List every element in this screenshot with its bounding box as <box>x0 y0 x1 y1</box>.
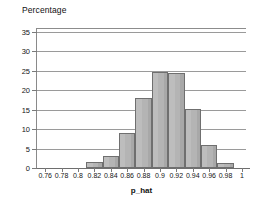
y-axis-tick-label: 0 <box>26 164 30 173</box>
y-axis-tick-label: 25 <box>22 66 30 75</box>
y-axis-tick-label: 5 <box>26 144 30 153</box>
histogram-bar <box>103 156 119 168</box>
y-axis-tick-label: 35 <box>22 27 30 36</box>
x-axis-tick-label: 0.84 <box>104 172 118 179</box>
histogram-bar <box>185 109 201 169</box>
x-axis-tick-label: 0.92 <box>170 172 184 179</box>
x-axis-tick-label: 1 <box>240 172 244 179</box>
x-axis-title: p_hat <box>37 186 246 195</box>
y-axis-tick-label: 20 <box>22 86 30 95</box>
x-axis-tick-label: 0.98 <box>219 172 233 179</box>
y-axis-title: Percentage <box>22 5 66 15</box>
histogram-bar <box>217 163 233 168</box>
histogram-bar <box>135 98 151 168</box>
x-axis-tick-label: 0.88 <box>137 172 151 179</box>
histogram-bar <box>201 145 217 168</box>
bar-series <box>37 28 246 168</box>
histogram-bar <box>86 162 102 168</box>
histogram-bar <box>152 72 168 168</box>
x-axis-tick-label: 0.76 <box>38 172 52 179</box>
x-axis-tick-label: 0.9 <box>155 172 165 179</box>
plot-area: 05101520253035 0.760.780.80.820.840.860.… <box>37 28 246 168</box>
y-axis-tick-label: 30 <box>22 47 30 56</box>
x-axis-tick-label: 0.8 <box>73 172 83 179</box>
x-axis-tick-label: 0.82 <box>88 172 102 179</box>
histogram-bar <box>168 73 184 168</box>
y-axis-tick <box>32 168 37 169</box>
x-axis-tick-label: 0.96 <box>202 172 216 179</box>
x-axis-tick-label: 0.94 <box>186 172 200 179</box>
histogram-chart: Percentage 05101520253035 0.760.780.80.8… <box>0 0 259 207</box>
y-axis-tick-label: 10 <box>22 125 30 134</box>
x-axis-tick-label: 0.78 <box>55 172 69 179</box>
histogram-bar <box>119 133 135 168</box>
y-axis-tick-label: 15 <box>22 105 30 114</box>
x-axis-tick-label: 0.86 <box>120 172 134 179</box>
